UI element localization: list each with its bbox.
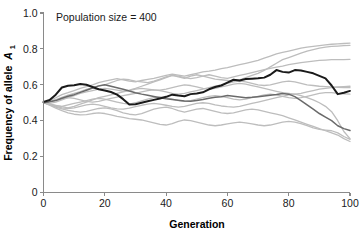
x-tick-label: 20	[99, 197, 111, 209]
y-tick-label: 0.8	[23, 43, 38, 55]
x-axis-ticks: 020406080100	[41, 193, 359, 209]
x-tick-label: 80	[283, 197, 295, 209]
series-line-replicate-5-background	[44, 45, 351, 103]
y-axis-title: Frequency of allele A 1	[2, 45, 17, 161]
x-tick-label: 100	[341, 197, 359, 209]
y-axis-ticks: 00.20.40.60.81.0	[23, 7, 44, 199]
y-axis-title-symbol: A	[2, 52, 14, 61]
population-size-annotation: Population size = 400	[56, 11, 157, 23]
y-tick-label: 0.2	[23, 150, 38, 162]
x-tick-label: 60	[222, 197, 234, 209]
y-tick-label: 0.4	[23, 114, 38, 126]
y-axis-title-subscript: 1	[8, 45, 17, 49]
line-chart-svg: 00.20.40.60.81.0 020406080100 Generation…	[0, 0, 363, 233]
x-axis-title: Generation	[169, 218, 224, 230]
chart-figure: 00.20.40.60.81.0 020406080100 Generation…	[0, 0, 363, 233]
y-tick-label: 0	[32, 186, 38, 198]
x-tick-label: 40	[160, 197, 172, 209]
x-tick-label: 0	[41, 197, 47, 209]
y-axis-title-text: Frequency of allele	[2, 66, 14, 161]
series-line-replicate-10-background	[44, 103, 351, 140]
series-layer	[44, 43, 351, 141]
y-tick-label: 1.0	[23, 7, 38, 19]
y-tick-label: 0.6	[23, 79, 38, 91]
